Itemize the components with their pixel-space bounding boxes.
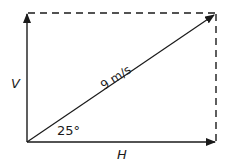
- horizontal-component-label: H: [117, 147, 127, 162]
- vertical-component-label: V: [11, 76, 21, 91]
- angle-label: 25°: [57, 123, 80, 138]
- resultant-label: 9 m/s: [98, 63, 134, 93]
- vector-diagram: V 9 m/s 25° H: [0, 0, 242, 164]
